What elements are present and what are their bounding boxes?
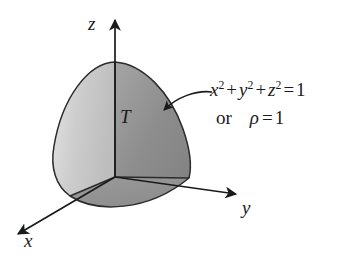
alternative-equals: = xyxy=(260,107,275,128)
equation-result: 1 xyxy=(296,79,306,100)
equation-sphere: x2+y2+z2=1 xyxy=(210,76,306,104)
equation-plus-1: + xyxy=(224,79,239,100)
spherical-octant-figure: z y x T x2+y2+z2=1 orρ=1 xyxy=(0,0,363,259)
equation-plus-2: + xyxy=(253,79,268,100)
diagram-canvas xyxy=(0,0,363,259)
axis-label-y: y xyxy=(242,198,250,217)
alternative-or-word: or xyxy=(216,107,232,128)
octant-face-left xyxy=(53,62,115,196)
equation-alternative: orρ=1 xyxy=(210,104,306,132)
axis-label-z: z xyxy=(88,14,95,33)
region-label-t: T xyxy=(120,107,131,126)
equation-annotation: x2+y2+z2=1 orρ=1 xyxy=(210,76,306,131)
equation-z-term: z xyxy=(268,79,275,100)
alternative-rho-symbol: ρ xyxy=(232,107,260,128)
alternative-result: 1 xyxy=(275,107,285,128)
equation-equals: = xyxy=(281,79,296,100)
axis-label-x: x xyxy=(24,231,32,250)
